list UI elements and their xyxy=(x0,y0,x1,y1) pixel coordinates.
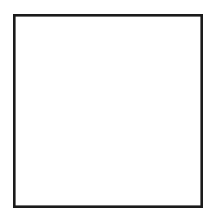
distribution-range-map-figure xyxy=(0,0,215,222)
map-frame-border xyxy=(14,15,201,206)
map-canvas xyxy=(0,0,215,222)
